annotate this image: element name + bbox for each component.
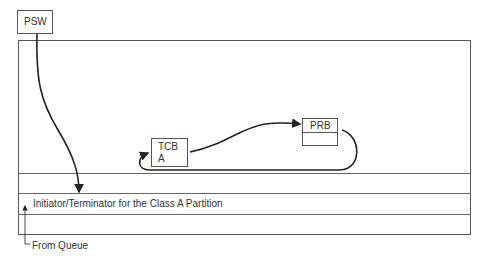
connector-arrows <box>0 0 488 256</box>
prb-to-tcb-arrow <box>140 130 357 170</box>
psw-to-initiator-arrow <box>37 34 79 192</box>
tcb-to-prb-arrow <box>190 123 300 152</box>
